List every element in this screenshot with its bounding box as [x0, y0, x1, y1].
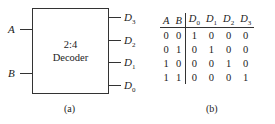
cell: 0 [203, 56, 220, 70]
cell: 0 [237, 42, 254, 56]
cell: 1 [237, 70, 254, 84]
cell: 1 [185, 28, 203, 43]
cell: 0 [220, 42, 237, 56]
output-label-d0: D0 [124, 80, 135, 96]
output-wire-d3 [109, 17, 121, 18]
output-label-d3: D3 [124, 12, 135, 28]
cell: 0 [237, 56, 254, 70]
cell: 1 [203, 42, 220, 56]
truth-table-header: A B D0 D1 D2 D3 [160, 13, 254, 28]
header-d3: D3 [237, 13, 254, 28]
cell: 0 [237, 28, 254, 43]
decoder-label-ratio: 2:4 [32, 38, 109, 51]
cell: 0 [185, 70, 203, 84]
cell: 1 [160, 56, 172, 70]
table-row: 0 0 1 0 0 0 [160, 28, 254, 43]
input-wire-b [20, 73, 32, 74]
cell: 0 [172, 28, 185, 43]
cell: 1 [160, 70, 172, 84]
cell: 0 [172, 56, 185, 70]
input-label-a: A [8, 24, 15, 35]
caption-b: (b) [206, 103, 218, 114]
decoder-label: 2:4 Decoder [32, 38, 109, 64]
cell: 0 [220, 28, 237, 43]
cell: 0 [203, 70, 220, 84]
input-label-b: B [8, 68, 15, 79]
truth-table: A B D0 D1 D2 D3 0 0 1 0 0 0 0 1 0 1 0 0 … [160, 13, 254, 84]
output-label-d1: D1 [124, 57, 135, 73]
cell: 0 [185, 56, 203, 70]
output-label-d2: D2 [124, 35, 135, 51]
table-row: 1 1 0 0 0 1 [160, 70, 254, 84]
caption-a: (a) [64, 103, 75, 114]
cell: 0 [160, 42, 172, 56]
decoder-label-name: Decoder [32, 51, 109, 64]
header-d1: D1 [203, 13, 220, 28]
cell: 0 [160, 28, 172, 43]
cell: 0 [220, 70, 237, 84]
input-wire-a [20, 29, 32, 30]
header-d0: D0 [185, 13, 203, 28]
cell: 1 [172, 70, 185, 84]
header-a: A [160, 13, 172, 28]
cell: 1 [220, 56, 237, 70]
cell: 0 [203, 28, 220, 43]
header-d2: D2 [220, 13, 237, 28]
cell: 1 [172, 42, 185, 56]
cell: 0 [185, 42, 203, 56]
output-wire-d0 [109, 85, 121, 86]
table-row: 0 1 0 1 0 0 [160, 42, 254, 56]
output-wire-d1 [109, 62, 121, 63]
table-row: 1 0 0 0 1 0 [160, 56, 254, 70]
output-wire-d2 [109, 40, 121, 41]
header-b: B [172, 13, 185, 28]
